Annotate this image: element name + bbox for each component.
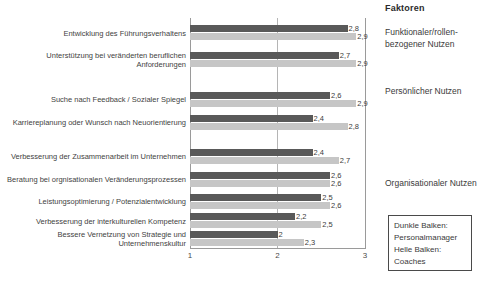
bar-value-coaches-6: 2,6: [331, 201, 341, 210]
factor-group-personal: Persönlicher Nutzen: [385, 86, 477, 98]
bar-personalmanager-4: [190, 149, 313, 156]
category-label-8: Bessere Vernetzung von Strategie und Unt…: [4, 230, 186, 248]
x-tick-2: 2: [275, 251, 279, 260]
bar-personalmanager-3: [190, 115, 313, 122]
bar-personalmanager-6: [190, 194, 321, 201]
bar-coaches-1: [190, 60, 356, 67]
bar-value-coaches-5: 2,6: [331, 179, 341, 188]
bar-value-coaches-2: 2,9: [357, 99, 367, 108]
bar-value-personalmanager-2: 2,6: [331, 91, 341, 100]
bar-personalmanager-1: [190, 52, 339, 59]
bar-value-personalmanager-1: 2,7: [340, 51, 350, 60]
bar-personalmanager-2: [190, 92, 330, 99]
factor-group-organizational: Organisationaler Nutzen: [385, 178, 477, 190]
bar-value-coaches-8: 2,3: [305, 238, 315, 247]
legend-light-title: Helle Balken:: [394, 244, 466, 256]
chart-canvas: Faktoren Funktionaler/rollen-bezogener N…: [0, 0, 478, 288]
bar-value-coaches-4: 2,7: [340, 156, 350, 165]
category-label-5: Beratung bei orgnisationalen Veränderung…: [4, 175, 186, 184]
legend: Dunkle Balken: Personalmanager Helle Bal…: [388, 215, 472, 271]
category-label-7: Verbesserung der interkulturellen Kompet…: [4, 217, 186, 226]
factors-heading: Faktoren: [385, 3, 425, 13]
bar-coaches-3: [190, 123, 348, 130]
category-label-4: Verbesserung der Zusammenarbeit im Unter…: [4, 152, 186, 161]
plot-area: 123 2,82,92,72,92,62,92,42,82,42,72,62,6…: [190, 18, 366, 248]
legend-dark-title: Dunkle Balken:: [394, 220, 466, 232]
bar-value-personalmanager-7: 2,2: [296, 212, 306, 221]
bar-coaches-8: [190, 239, 304, 246]
bar-personalmanager-7: [190, 213, 295, 220]
category-label-1: Unterstützung bei veränderten berufliche…: [4, 51, 186, 69]
legend-light-value: Coaches: [394, 256, 466, 268]
bar-coaches-2: [190, 100, 356, 107]
axis-right-spine: [365, 18, 366, 248]
category-label-6: Leistungsoptimierung / Potenzialentwickl…: [4, 197, 186, 206]
bar-value-personalmanager-3: 2,4: [314, 114, 324, 123]
category-label-3: Karriereplanung oder Wunsch nach Neuorie…: [4, 118, 186, 127]
legend-dark-value: Personalmanager: [394, 232, 466, 244]
bar-value-personalmanager-8: 2: [279, 230, 283, 239]
bar-value-coaches-7: 2,5: [322, 220, 332, 229]
bar-value-coaches-0: 2,9: [357, 32, 367, 41]
bar-coaches-4: [190, 157, 339, 164]
bar-coaches-5: [190, 180, 330, 187]
bar-personalmanager-0: [190, 25, 348, 32]
axis-bottom-spine: [190, 248, 366, 249]
factor-group-functional: Funktionaler/rollen-bezogener Nutzen: [385, 27, 477, 50]
category-label-2: Suche nach Feedback / Sozialer Spiegel: [4, 95, 186, 104]
x-tick-1: 1: [188, 251, 192, 260]
bar-coaches-6: [190, 202, 330, 209]
x-tick-3: 3: [363, 251, 367, 260]
bar-value-coaches-3: 2,8: [349, 122, 359, 131]
category-label-0: Entwicklung des Führungsverhaltens: [4, 29, 186, 38]
bar-value-coaches-1: 2,9: [357, 59, 367, 68]
bar-personalmanager-8: [190, 231, 278, 238]
bar-personalmanager-5: [190, 172, 330, 179]
bar-coaches-7: [190, 221, 321, 228]
bar-value-personalmanager-4: 2,4: [314, 148, 324, 157]
bar-coaches-0: [190, 33, 356, 40]
